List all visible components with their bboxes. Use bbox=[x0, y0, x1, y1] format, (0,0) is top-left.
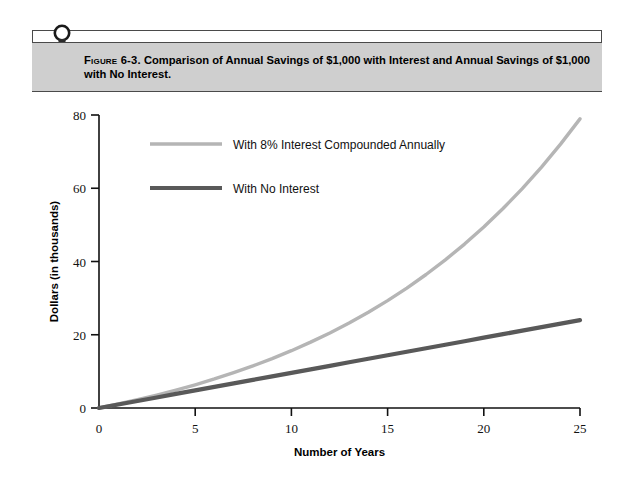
figure-page: Figure 6-3. Comparison of Annual Savings… bbox=[0, 0, 632, 484]
y-axis-title: Dollars (in thousands) bbox=[48, 201, 60, 323]
chart-tick-labels: 0204060800510152025 bbox=[73, 108, 587, 436]
chart-ticks bbox=[91, 115, 580, 416]
y-tick-label: 20 bbox=[73, 328, 86, 343]
y-tick-label: 80 bbox=[73, 108, 86, 123]
figure-caption-body: Comparison of Annual Savings of $1,000 w… bbox=[84, 54, 590, 80]
series-line-with-no-interest bbox=[99, 320, 580, 408]
x-tick-label: 25 bbox=[574, 421, 587, 436]
x-tick-label: 20 bbox=[477, 421, 490, 436]
x-axis-title: Number of Years bbox=[294, 446, 385, 458]
x-tick-label: 10 bbox=[285, 421, 298, 436]
figure-number-label: Figure 6-3. bbox=[84, 54, 141, 66]
chart-legend: With 8% Interest Compounded AnnuallyWith… bbox=[150, 138, 445, 196]
figure-caption-bar: Figure 6-3. Comparison of Annual Savings… bbox=[32, 42, 602, 92]
chart-series-lines bbox=[99, 119, 580, 408]
legend-label-0: With 8% Interest Compounded Annually bbox=[233, 138, 445, 152]
savings-comparison-line-chart: 0204060800510152025 With 8% Interest Com… bbox=[32, 92, 602, 464]
legend-label-1: With No Interest bbox=[233, 182, 320, 196]
figure-caption-text: Figure 6-3. Comparison of Annual Savings… bbox=[84, 53, 594, 81]
y-tick-label: 40 bbox=[73, 255, 86, 270]
x-tick-label: 15 bbox=[381, 421, 394, 436]
chart-area: 0204060800510152025 With 8% Interest Com… bbox=[32, 92, 602, 464]
y-tick-label: 0 bbox=[80, 401, 87, 416]
x-tick-label: 5 bbox=[192, 421, 199, 436]
x-tick-label: 0 bbox=[96, 421, 103, 436]
y-tick-label: 60 bbox=[73, 181, 86, 196]
